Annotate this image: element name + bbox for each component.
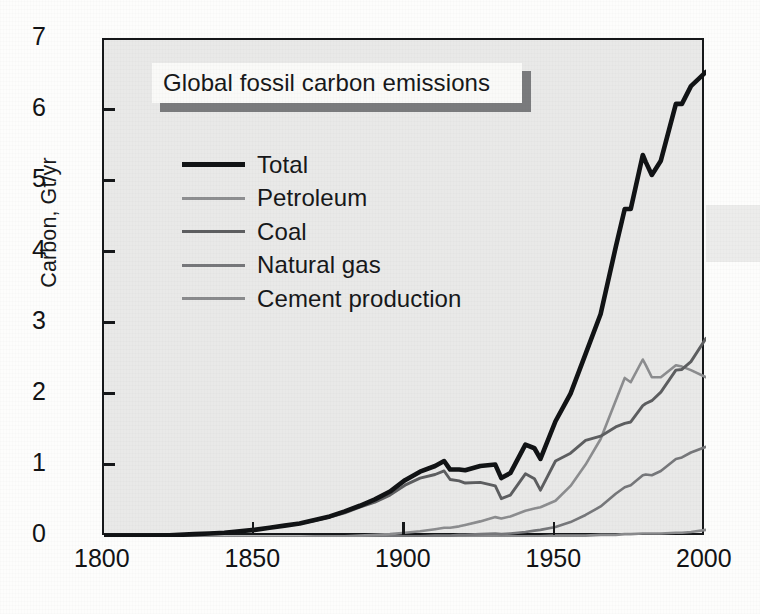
y-tick-label-0: 0 <box>6 521 46 546</box>
x-tick-label-1850: 1850 <box>225 546 281 571</box>
x-tick-mark-1850 <box>252 522 255 535</box>
series-line-natural-gas <box>104 447 706 537</box>
y-tick-label-1: 1 <box>6 450 46 475</box>
y-tick-mark-2 <box>102 392 115 395</box>
x-tick-label-2000: 2000 <box>676 546 732 571</box>
series-line-petroleum <box>104 360 706 538</box>
legend-swatch-icon <box>182 264 245 267</box>
x-tick-mark-1900 <box>402 522 405 535</box>
y-tick-mark-1 <box>102 463 115 466</box>
y-tick-label-6: 6 <box>6 95 46 120</box>
legend-item-natural-gas[interactable]: Natural gas <box>182 249 461 283</box>
y-tick-label-7: 7 <box>6 24 46 49</box>
title-shadow-right <box>522 71 531 112</box>
legend-swatch-icon <box>182 162 245 167</box>
legend-label: Total <box>257 151 308 179</box>
legend-item-coal[interactable]: Coal <box>182 215 461 249</box>
x-tick-label-1800: 1800 <box>74 546 130 571</box>
legend-label: Cement production <box>257 285 461 313</box>
legend-swatch-icon <box>182 197 245 200</box>
y-tick-label-3: 3 <box>6 308 46 333</box>
y-tick-label-4: 4 <box>6 237 46 262</box>
figure-canvas: Carbon, Gt/yr 76543210 18001850190019502… <box>0 0 760 614</box>
y-tick-mark-5 <box>102 179 115 182</box>
y-tick-label-5: 5 <box>6 166 46 191</box>
y-tick-mark-3 <box>102 321 115 324</box>
chart-title: Global fossil carbon emissions <box>152 69 490 97</box>
y-tick-mark-6 <box>102 108 115 111</box>
legend-label: Petroleum <box>257 184 367 212</box>
y-tick-mark-4 <box>102 250 115 253</box>
scan-artifact-band <box>706 205 760 262</box>
title-shadow-bottom <box>160 103 530 112</box>
legend-label: Coal <box>257 218 307 246</box>
legend-swatch-icon <box>182 297 245 300</box>
series-line-coal <box>104 338 706 536</box>
x-tick-mark-1950 <box>553 522 556 535</box>
chart-legend: TotalPetroleumCoalNatural gasCement prod… <box>182 148 461 316</box>
legend-swatch-icon <box>182 230 245 233</box>
legend-item-cement-production[interactable]: Cement production <box>182 282 461 316</box>
chart-title-box: Global fossil carbon emissions <box>152 63 522 103</box>
y-tick-label-2: 2 <box>6 379 46 404</box>
legend-label: Natural gas <box>257 251 381 279</box>
legend-item-total[interactable]: Total <box>182 148 461 182</box>
x-tick-label-1950: 1950 <box>526 546 582 571</box>
legend-item-petroleum[interactable]: Petroleum <box>182 182 461 216</box>
x-tick-label-1900: 1900 <box>375 546 431 571</box>
